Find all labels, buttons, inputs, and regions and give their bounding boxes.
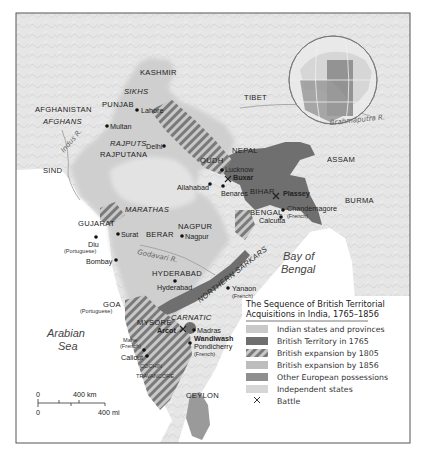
city-calcutta: Calcutta	[259, 216, 285, 225]
label-afghanistan: AFGHANISTAN	[35, 105, 92, 114]
legend-label-other-european: Other European possessions	[277, 373, 388, 382]
city-arcot: Arcot	[157, 326, 176, 335]
label-sind: SIND	[43, 166, 63, 175]
note-chandernagore-french: (French)	[287, 213, 308, 219]
label-berar: BERAR	[146, 230, 174, 239]
note-pondicherry-french: (French)	[194, 351, 215, 357]
label-hyderabad: HYDERABAD	[152, 269, 202, 278]
legend-swatch-other-european	[246, 373, 268, 381]
legend-swatch-british-1805	[246, 349, 268, 357]
label-travancore: TRAVANCORE	[136, 373, 174, 379]
label-sikhs: SIKHS	[124, 87, 148, 96]
label-nepal: NEPAL	[232, 146, 258, 155]
legend-title-line1: The Sequence of British Territorial	[245, 299, 385, 309]
city-hyderabad: Hyderabad	[157, 283, 192, 292]
label-arabian-sea-2: Sea	[58, 340, 78, 352]
city-bombay: Bombay	[86, 257, 113, 266]
legend-swatch-independent	[246, 385, 268, 393]
label-cochin: COCHIN	[140, 363, 162, 369]
scale-km-zero: 0	[36, 390, 40, 399]
label-rajputana: RAJPUTANA	[100, 150, 148, 159]
label-tibet: TIBET	[244, 93, 267, 102]
legend-label-battle: Battle	[277, 397, 300, 406]
city-benares: Benares	[221, 189, 248, 198]
legend-title-line2: Acquisitions in India, 1765–1856	[246, 309, 379, 319]
city-lahore: Lahore	[141, 106, 163, 115]
legend-label-indian-states: Indian states and provinces	[277, 325, 385, 334]
legend-label-british-1765: British Territory in 1765	[277, 337, 369, 346]
label-kashmir: KASHMIR	[140, 68, 177, 77]
label-afghans: AFGHANS	[42, 117, 82, 126]
label-gujarat: GUJARAT	[78, 219, 115, 228]
label-bihar: BIHAR	[250, 187, 275, 196]
label-nagpur: NAGPUR	[178, 222, 213, 231]
legend-label-british-1805: British expansion by 1805	[277, 349, 379, 358]
legend-swatch-british-1765	[246, 337, 268, 345]
city-nagpur: Nagpur	[185, 232, 209, 241]
label-arabian-sea-1: Arabian	[46, 327, 85, 339]
city-plassey: Plassey	[283, 189, 310, 198]
label-bay-of-bengal-1: Bay of	[283, 250, 315, 262]
label-rajputs: RAJPUTS	[110, 139, 147, 148]
note-mahe-french: (French)	[120, 343, 141, 349]
legend-swatch-british-1856	[246, 361, 268, 369]
city-surat: Surat	[121, 230, 138, 239]
legend-label-british-1856: British expansion by 1856	[277, 361, 379, 370]
city-yanaon: Yanaon	[232, 284, 256, 293]
locator-globe	[289, 36, 377, 124]
legend-label-independent: Independent states	[277, 385, 353, 394]
note-diu-portuguese: (Portuguese)	[64, 248, 96, 254]
city-multan: Multan	[110, 122, 132, 131]
label-punjab: PUNJAB	[102, 100, 134, 109]
label-carnatic: CARNATIC	[171, 313, 212, 322]
scale-mi-label: 400 mi	[98, 408, 120, 417]
scale-mi-zero: 0	[36, 408, 40, 417]
label-bay-of-bengal-2: Bengal	[281, 263, 316, 275]
legend-swatch-indian-states	[246, 325, 268, 333]
scale-km-label: 400 km	[73, 390, 97, 399]
label-burma: BURMA	[345, 196, 375, 205]
city-pondicherry: Pondicherry	[194, 342, 233, 351]
label-ceylon: CEYLON	[186, 391, 219, 400]
city-chandernagore: Chandernagore	[287, 204, 337, 213]
historical-map: KASHMIR SIKHS PUNJAB AFGHANISTAN AFGHANS…	[0, 0, 422, 455]
note-goa-portuguese: (Portuguese)	[80, 308, 112, 314]
label-marathas: MARATHAS	[125, 205, 169, 214]
city-delhi: Delhi	[146, 142, 163, 151]
label-oudh: OUDH	[200, 156, 224, 165]
label-assam: ASSAM	[327, 155, 355, 164]
city-buxar: Buxar	[233, 173, 254, 182]
city-allahabad: Allahabad	[177, 183, 209, 192]
city-calicut: Calicut	[121, 353, 143, 362]
